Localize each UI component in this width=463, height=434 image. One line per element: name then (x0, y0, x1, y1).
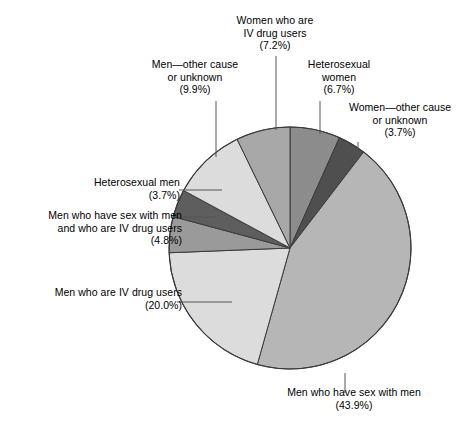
pie-label-msm-and-ivdu: Men who have sex with men and who are IV… (6, 209, 182, 247)
pie-label-heterosexual-women: Heterosexual women (6.7%) (292, 58, 386, 96)
pie-chart-figure: Women who are IV drug users (7.2%) Men—o… (0, 0, 463, 434)
pie-label-women-other-cause: Women—other cause or unknown (3.7%) (338, 101, 462, 139)
pie-label-men-ivdu: Men who are IV drug users (20.0%) (6, 286, 182, 311)
pie-label-men-other-cause: Men—other cause or unknown (9.9%) (136, 58, 254, 96)
pie-label-msm: Men who have sex with men (43.9%) (254, 386, 454, 411)
pie-label-women-ivdu: Women who are IV drug users (7.2%) (215, 14, 335, 52)
pie-label-heterosexual-men: Heterosexual men (3.7%) (58, 176, 180, 201)
pie-slices (169, 127, 411, 369)
